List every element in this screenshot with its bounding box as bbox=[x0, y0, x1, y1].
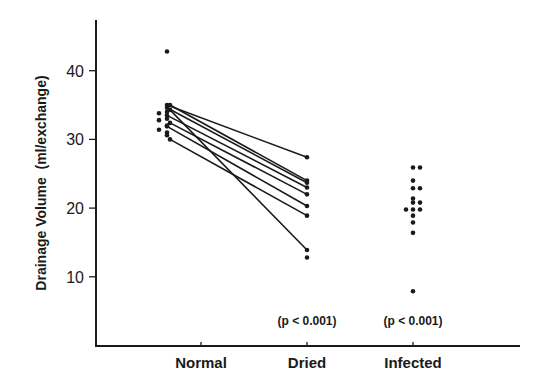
data-point-infected bbox=[411, 289, 416, 294]
data-point-dried bbox=[305, 255, 310, 260]
y-tick-label: 20 bbox=[66, 200, 84, 217]
data-point-normal bbox=[165, 116, 170, 121]
data-point-infected bbox=[418, 165, 423, 170]
data-point-infected bbox=[411, 186, 416, 191]
y-tick-label: 10 bbox=[66, 269, 84, 286]
paired-line bbox=[170, 105, 307, 181]
y-tick-label: 30 bbox=[66, 131, 84, 148]
data-point-normal bbox=[168, 137, 173, 142]
data-point-infected bbox=[418, 200, 423, 205]
y-axis-label: Drainage Volume (ml/exchange) bbox=[33, 75, 49, 290]
data-point-infected bbox=[411, 213, 416, 218]
x-tick-label-infected: Infected bbox=[384, 354, 442, 371]
data-point-normal bbox=[165, 123, 170, 128]
data-point-infected bbox=[411, 178, 416, 183]
paired-line bbox=[167, 108, 307, 183]
data-point-infected bbox=[404, 207, 409, 212]
data-point-infected bbox=[411, 165, 416, 170]
data-point-infected bbox=[418, 186, 423, 191]
x-tick-label-normal: Normal bbox=[175, 354, 227, 371]
data-point-normal bbox=[157, 118, 162, 123]
p-value-annotation-dried: (p < 0.001) bbox=[277, 314, 336, 328]
data-point-normal bbox=[157, 111, 162, 116]
data-point-normal bbox=[165, 49, 170, 54]
data-point-dried bbox=[305, 180, 310, 185]
data-point-dried bbox=[305, 213, 310, 218]
data-point-normal bbox=[165, 133, 170, 138]
paired-line bbox=[167, 126, 307, 206]
data-point-infected bbox=[411, 200, 416, 205]
x-tick-label-dried: Dried bbox=[288, 354, 326, 371]
chart: 10203040 NormalDriedInfected Drainage Vo… bbox=[0, 0, 560, 387]
paired-lines bbox=[167, 105, 307, 250]
y-tick-label: 40 bbox=[66, 63, 84, 80]
annotations: (p < 0.001)(p < 0.001) bbox=[277, 314, 442, 328]
data-point-dried bbox=[305, 192, 310, 197]
data-point-dried bbox=[305, 185, 310, 190]
data-point-normal bbox=[165, 110, 170, 115]
data-point-normal bbox=[157, 127, 162, 132]
data-point-dried bbox=[305, 248, 310, 253]
y-ticks: 10203040 bbox=[66, 63, 96, 286]
data-point-infected bbox=[411, 231, 416, 236]
data-point-infected bbox=[411, 207, 416, 212]
data-point-infected bbox=[411, 196, 416, 201]
data-point-infected bbox=[418, 207, 423, 212]
data-point-dried bbox=[305, 155, 310, 160]
data-point-infected bbox=[411, 220, 416, 225]
data-point-dried bbox=[305, 204, 310, 209]
paired-line bbox=[170, 123, 307, 194]
p-value-annotation-infected: (p < 0.001) bbox=[383, 314, 442, 328]
